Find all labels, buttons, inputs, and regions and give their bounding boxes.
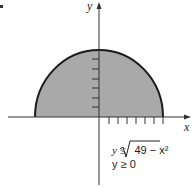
- inequality-2: y ≥ 0: [112, 157, 136, 171]
- inequality-1: y ≤ 49 − x²: [112, 143, 168, 157]
- y-axis-arrow-icon: [97, 2, 102, 9]
- x-axis-label: x: [184, 120, 189, 135]
- y-axis-label: y: [87, 0, 92, 14]
- region-graph: [0, 0, 192, 187]
- inequality-1-lhs: y ≤: [112, 144, 128, 156]
- x-ticks: [109, 117, 163, 124]
- bullet-marker: [0, 5, 3, 8]
- inequality-1-radicand: 49 − x²: [134, 144, 168, 156]
- x-axis-arrow-icon: [184, 115, 191, 120]
